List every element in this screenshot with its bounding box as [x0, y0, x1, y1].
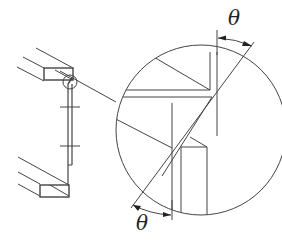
theta-label-bottom: θ	[136, 213, 148, 233]
theta-label-top: θ	[228, 8, 240, 28]
bottom-flange	[18, 157, 69, 197]
vertical-plate	[60, 78, 80, 185]
top-flange	[17, 48, 73, 81]
top-angle-dimension	[218, 36, 252, 47]
